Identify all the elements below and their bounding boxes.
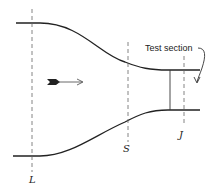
- test-section-callout-arrow: [197, 48, 205, 82]
- callout-arrowhead-icon: [194, 77, 200, 83]
- label-L: L: [28, 174, 36, 185]
- label-J: J: [177, 129, 184, 140]
- wind-tunnel-diagram: Test section L S J: [0, 0, 220, 188]
- flow-arrow-icon: [47, 79, 83, 85]
- label-S: S: [123, 143, 130, 154]
- lower-wall: [13, 110, 200, 156]
- test-section-label: Test section: [145, 43, 193, 53]
